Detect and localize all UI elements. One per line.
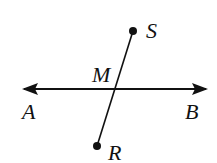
label-s: S [146,18,157,43]
label-m: M [91,62,112,87]
point-s [129,27,137,35]
label-b: B [185,99,198,124]
geometry-diagram: S R M A B [0,0,217,163]
label-r: R [107,140,122,163]
point-r [93,142,101,150]
diagram-svg: S R M A B [0,0,217,163]
label-a: A [20,99,36,124]
